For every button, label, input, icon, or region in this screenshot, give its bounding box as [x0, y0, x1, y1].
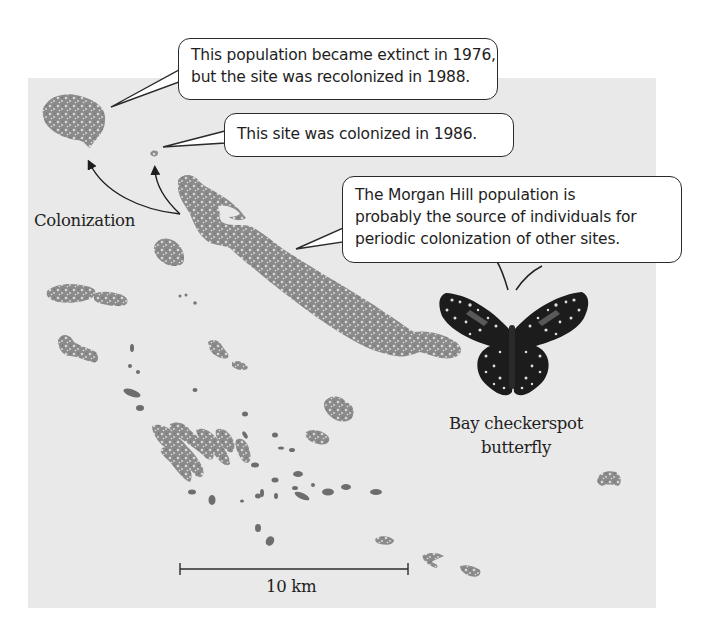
patch-west-3 — [58, 335, 98, 362]
callout-morgan-hill-line-3: periodic colonization of other sites. — [355, 228, 671, 250]
colonization-arrow-to-recolonized — [90, 164, 180, 214]
callout-colonized-1986: This site was colonized in 1986. — [224, 113, 514, 157]
patch-dot — [185, 294, 188, 297]
colonization-arrow-to-1986-site — [155, 170, 180, 214]
callout-tail-extinct — [111, 70, 179, 107]
butterfly-caption-line-1: Bay checkerspot — [446, 412, 586, 436]
butterfly-caption-line-2: butterfly — [446, 436, 586, 460]
patch-east-2 — [306, 430, 330, 445]
patch-west-2 — [94, 292, 127, 306]
callout-tail-colonized — [163, 131, 225, 147]
callout-morgan-hill-line-1: The Morgan Hill population is — [355, 184, 671, 206]
patch-west-1 — [46, 284, 95, 303]
patch-near-colonization — [154, 239, 184, 267]
bay-checkerspot-butterfly-icon — [439, 260, 588, 395]
patch-dot — [179, 295, 182, 298]
butterfly-caption: Bay checkerspot butterfly — [446, 412, 586, 460]
patch-recolonized-site — [43, 94, 106, 148]
patch-central-2 — [232, 361, 248, 370]
callout-morgan-hill-source: The Morgan Hill population is probably t… — [342, 176, 682, 263]
patch-dot — [193, 301, 197, 305]
solid-patches — [122, 344, 382, 547]
patch-southeast-3 — [460, 565, 480, 577]
callout-morgan-hill-line-2: probably the source of individuals for — [355, 206, 671, 228]
morgan-hill-gap — [218, 205, 240, 217]
patch-southeast-1 — [375, 536, 394, 545]
callout-tail-morgan-hill — [296, 228, 343, 249]
patch-colonized-1986 — [150, 150, 158, 156]
metapopulation-map-figure: This population became extinct in 1976, … — [0, 0, 703, 630]
callout-extinct-line-2: but the site was recolonized in 1988. — [191, 66, 487, 88]
callout-colonized-line-1: This site was colonized in 1986. — [237, 123, 503, 145]
patch-central-1 — [208, 340, 229, 359]
callout-extinct-line-1: This population became extinct in 1976, — [191, 44, 487, 66]
patch-south-cluster-5 — [235, 439, 250, 463]
patch-southeast-2 — [422, 553, 444, 568]
colonization-label: Colonization — [34, 211, 135, 230]
callout-extinct-recolonized: This population became extinct in 1976, … — [178, 38, 498, 100]
scale-bar — [180, 563, 408, 575]
patch-east-1 — [324, 396, 354, 421]
patch-far-east — [597, 471, 621, 486]
scale-bar-label: 10 km — [266, 577, 316, 596]
